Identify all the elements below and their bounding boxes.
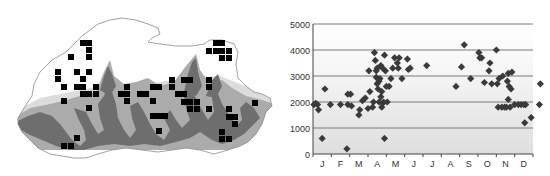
occurrence-marker — [143, 91, 149, 97]
elevation-map — [0, 0, 290, 176]
occurrence-marker — [219, 129, 225, 135]
occurrence-marker — [118, 91, 124, 97]
occurrence-marker — [194, 106, 200, 112]
occurrence-marker — [187, 77, 193, 83]
occurrence-marker — [213, 48, 219, 54]
x-tick-label: A — [374, 159, 380, 169]
occurrence-marker — [61, 98, 67, 104]
occurrence-marker — [150, 84, 156, 90]
occurrence-marker — [219, 136, 225, 142]
occurrence-marker — [206, 84, 212, 90]
x-axis: JFMAMJJASOND — [313, 154, 533, 169]
occurrence-marker — [181, 91, 187, 97]
occurrence-marker — [162, 113, 168, 119]
y-tick-label: 2000 — [290, 98, 310, 108]
occurrence-marker — [86, 69, 92, 75]
occurrence-marker — [232, 121, 238, 127]
x-tick-label: M — [355, 159, 363, 169]
occurrence-marker — [181, 77, 187, 83]
occurrence-marker — [150, 98, 156, 104]
occurrence-marker — [226, 106, 232, 112]
occurrence-marker — [187, 99, 193, 105]
x-tick-label: J — [320, 159, 325, 169]
occurrence-marker — [175, 91, 181, 97]
occurrence-marker — [169, 77, 175, 83]
x-tick-label: S — [466, 159, 472, 169]
occurrence-marker — [252, 100, 258, 106]
y-tick-label: 1000 — [290, 124, 310, 134]
occurrence-marker — [194, 99, 200, 105]
occurrence-marker — [74, 84, 80, 90]
occurrence-marker — [55, 69, 61, 75]
occurrence-marker — [86, 40, 92, 46]
y-axis: 010002000300040005000 — [290, 20, 313, 160]
elevation-by-month-chart: 010002000300040005000 JFMAMJJASOND — [290, 0, 550, 176]
occurrence-marker — [68, 143, 74, 149]
occurrence-marker — [86, 54, 92, 60]
chart-canvas: 010002000300040005000 JFMAMJJASOND — [290, 0, 550, 176]
occurrence-marker — [150, 113, 156, 119]
occurrence-marker — [226, 136, 232, 142]
occurrence-marker — [219, 48, 225, 54]
occurrence-marker — [181, 99, 187, 105]
y-tick-label: 4000 — [290, 46, 310, 56]
occurrence-marker — [55, 76, 61, 82]
plot-area — [313, 24, 533, 154]
occurrence-marker — [80, 76, 86, 82]
occurrence-marker — [156, 113, 162, 119]
occurrence-marker — [206, 106, 212, 112]
occurrence-marker — [68, 54, 74, 60]
occurrence-marker — [86, 105, 92, 111]
x-tick-label: F — [338, 159, 344, 169]
x-tick-label: J — [430, 159, 435, 169]
occurrence-marker — [156, 84, 162, 90]
occurrence-marker — [232, 114, 238, 120]
occurrence-marker — [93, 91, 99, 97]
y-tick-label: 3000 — [290, 72, 310, 82]
x-tick-label: D — [521, 159, 528, 169]
occurrence-marker — [213, 40, 219, 46]
x-tick-label: O — [484, 159, 491, 169]
y-tick-label: 0 — [305, 150, 310, 160]
occurrence-marker — [137, 91, 143, 97]
occurrence-marker — [74, 69, 80, 75]
x-tick-label: N — [502, 159, 509, 169]
occurrence-marker — [156, 128, 162, 134]
occurrence-marker — [61, 84, 67, 90]
occurrence-marker — [86, 47, 92, 53]
occurrence-marker — [124, 84, 130, 90]
x-tick-label: M — [392, 159, 400, 169]
occurrence-marker — [206, 48, 212, 54]
occurrence-marker — [187, 106, 193, 112]
x-tick-label: J — [412, 159, 417, 169]
data-point-diamond — [537, 80, 544, 87]
occurrence-marker — [206, 77, 212, 83]
occurrence-marker — [219, 40, 225, 46]
data-point-diamond — [536, 101, 543, 108]
map-canvas — [0, 0, 290, 176]
occurrence-marker — [124, 91, 130, 97]
x-tick-label: A — [447, 159, 453, 169]
y-tick-label: 5000 — [290, 20, 310, 30]
occurrence-marker — [219, 55, 225, 61]
occurrence-marker — [80, 91, 86, 97]
occurrence-marker — [74, 135, 80, 141]
occurrence-marker — [86, 91, 92, 97]
occurrence-marker — [124, 98, 130, 104]
occurrence-marker — [80, 40, 86, 46]
occurrence-marker — [93, 84, 99, 90]
occurrence-marker — [61, 143, 67, 149]
occurrence-marker — [226, 114, 232, 120]
occurrence-marker — [226, 55, 232, 61]
occurrence-marker — [169, 84, 175, 90]
occurrence-marker — [80, 84, 86, 90]
occurrence-marker — [226, 48, 232, 54]
